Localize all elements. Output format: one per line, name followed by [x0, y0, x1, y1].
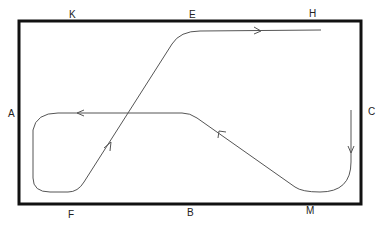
label-h: H [309, 9, 316, 19]
label-c: C [368, 107, 375, 117]
label-m: M [306, 206, 314, 216]
label-f: F [68, 210, 74, 220]
arrow-up-left-icon [218, 131, 226, 138]
label-a: A [8, 109, 15, 119]
track-diagram [0, 0, 384, 227]
label-e: E [189, 10, 196, 20]
label-k: K [69, 10, 76, 20]
label-b: B [187, 208, 194, 218]
